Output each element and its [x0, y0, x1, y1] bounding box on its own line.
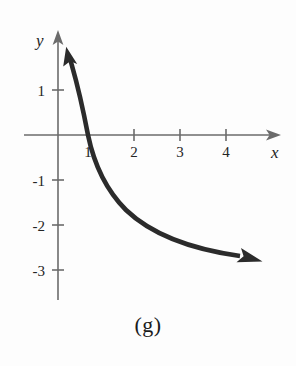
x-tick-label-2: 2: [130, 144, 138, 160]
y-axis-label: y: [34, 31, 44, 50]
x-axis-label: x: [270, 143, 279, 162]
x-tick-label-3: 3: [176, 144, 184, 160]
function-curve: [71, 61, 241, 257]
figure-caption: (g): [0, 312, 296, 338]
curve-group: [63, 47, 262, 262]
curve-end-arrow-icon: [237, 248, 263, 262]
figure-container: 1 2 3 4 1 -1 -2 -3 y x (g): [0, 0, 296, 366]
x-tick-labels: 1 2 3 4: [84, 144, 230, 160]
y-tick-labels: 1 -1 -2 -3: [33, 83, 46, 279]
x-tick-label-4: 4: [222, 144, 230, 160]
y-tick-label-neg2: -2: [33, 218, 46, 234]
y-tick-label-neg1: -1: [33, 173, 46, 189]
y-tick-label-neg3: -3: [33, 263, 46, 279]
y-tick-label-1: 1: [38, 83, 46, 99]
